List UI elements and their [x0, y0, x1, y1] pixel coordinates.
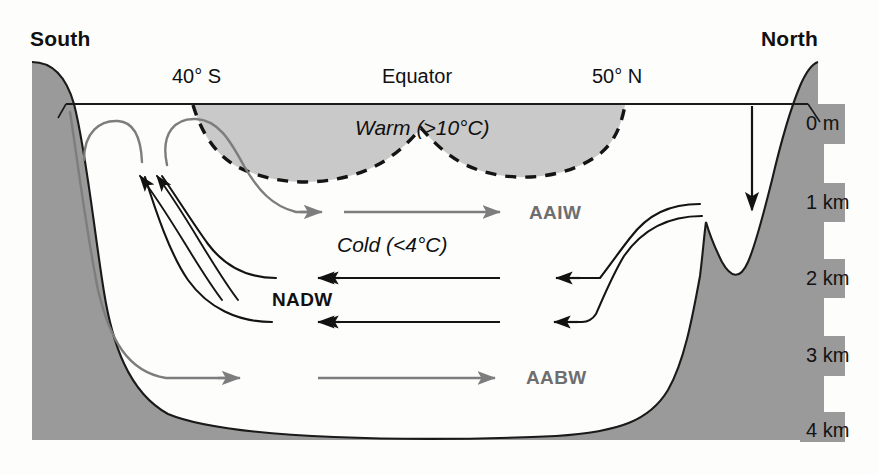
water-mass-label-nadw: NADW: [272, 290, 333, 309]
nadw-lower-limb-south: [145, 177, 272, 322]
southern-gray-hook: [84, 121, 142, 162]
figure-canvas: South North 40° S Equator 50° N Warm (>1…: [0, 0, 878, 475]
cold-layer-label: Cold (<4°C): [337, 234, 448, 255]
nadw-upper-limb-north: [580, 204, 700, 278]
water-mass-label-aabw: AABW: [526, 368, 587, 387]
depth-label-3km: 3 km: [806, 345, 849, 365]
depth-label-1km: 1 km: [806, 192, 849, 212]
upwelling-arrow-2: [157, 176, 238, 300]
depth-label-4km: 4 km: [806, 420, 849, 440]
water-mass-label-aaiw: AAIW: [529, 203, 581, 222]
black-transport-arrows: [322, 278, 500, 322]
nadw-upper-limb-south: [162, 176, 276, 278]
latitude-label-50n: 50° N: [592, 66, 642, 86]
nadw-black-arrowheads: [318, 278, 580, 322]
depth-label-0m: 0 m: [806, 113, 839, 133]
nadw-lower-limb-north: [578, 216, 702, 322]
upwelling-arrow-1: [140, 176, 222, 300]
compass-label-north: North: [761, 28, 818, 49]
compass-label-south: South: [30, 28, 90, 49]
latitude-label-equator: Equator: [382, 66, 452, 86]
depth-label-2km: 2 km: [806, 268, 849, 288]
warm-layer-label: Warm (>10°C): [355, 117, 490, 138]
latitude-label-40s: 40° S: [172, 66, 221, 86]
